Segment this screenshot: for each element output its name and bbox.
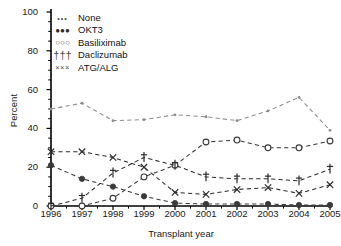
legend-label: Basiliximab — [78, 37, 126, 49]
data-point-marker — [327, 138, 333, 144]
data-point-marker — [265, 145, 271, 151]
data-point-marker — [110, 184, 115, 189]
data-point-marker — [112, 119, 115, 122]
series-atg-alg — [48, 148, 333, 197]
legend-marker-icon: ●●● — [51, 26, 74, 35]
legend-item-basiliximab: ○○○Basiliximab — [51, 37, 128, 49]
data-point-marker — [296, 145, 302, 151]
data-point-marker — [143, 118, 146, 121]
data-point-marker — [81, 102, 84, 105]
data-point-marker — [110, 195, 116, 201]
data-point-marker — [174, 113, 177, 116]
data-point-marker — [234, 137, 240, 143]
legend-marker-icon: ••• — [51, 14, 74, 23]
series-basiliximab — [48, 137, 333, 209]
x-tick-label: 1998 — [102, 209, 123, 219]
chart-legend: •••None●●●OKT3○○○Basiliximab†††Daclizuma… — [51, 12, 128, 74]
x-tick-label: 1996 — [40, 209, 61, 219]
legend-label: None — [78, 12, 101, 24]
legend-item-none: •••None — [51, 12, 128, 24]
x-tick-label: 2004 — [288, 209, 309, 219]
data-point-marker — [298, 96, 301, 99]
legend-label: ATG/ALG — [78, 62, 118, 74]
x-axis-tick-labels: 1996199719981999200020012002200320042005 — [0, 209, 340, 223]
data-point-marker — [236, 119, 239, 122]
x-tick-label: 1999 — [133, 209, 154, 219]
data-point-marker — [265, 201, 270, 206]
series-line — [51, 152, 330, 195]
data-point-marker — [172, 200, 177, 205]
data-point-marker — [203, 139, 209, 145]
data-point-marker — [296, 202, 301, 207]
legend-label: OKT3 — [78, 24, 103, 36]
x-tick-label: 2000 — [164, 209, 185, 219]
data-point-marker — [205, 115, 208, 118]
series-line — [51, 97, 330, 130]
legend-marker-icon: ††† — [51, 51, 74, 60]
data-point-marker — [141, 194, 146, 199]
data-point-marker — [234, 201, 239, 206]
x-tick-label: 2001 — [195, 209, 216, 219]
data-point-marker — [79, 176, 84, 181]
data-point-marker — [48, 163, 53, 168]
series-none — [50, 96, 332, 132]
series-line — [51, 165, 330, 205]
legend-item-atg-alg: ×××ATG/ALG — [51, 62, 128, 74]
x-axis-label: Transplant year — [0, 228, 340, 239]
data-point-marker — [327, 202, 332, 207]
legend-label: Daclizumab — [78, 49, 128, 61]
series-line — [51, 140, 330, 206]
data-point-marker — [329, 129, 332, 132]
data-point-marker — [267, 110, 270, 113]
data-point-marker — [141, 174, 147, 180]
data-point-marker — [50, 108, 53, 111]
legend-marker-icon: ××× — [51, 63, 74, 72]
series-okt3 — [48, 163, 332, 208]
series-daclizumab — [48, 152, 333, 210]
x-tick-label: 2003 — [257, 209, 278, 219]
data-point-marker — [203, 201, 208, 206]
x-tick-label: 1997 — [71, 209, 92, 219]
x-axis-label-text: Transplant year — [126, 228, 214, 239]
x-tick-label: 2005 — [319, 209, 340, 219]
legend-item-daclizumab: †††Daclizumab — [51, 49, 128, 61]
x-tick-label: 2002 — [226, 209, 247, 219]
legend-item-okt3: ●●●OKT3 — [51, 24, 128, 36]
legend-marker-icon: ○○○ — [51, 38, 74, 47]
